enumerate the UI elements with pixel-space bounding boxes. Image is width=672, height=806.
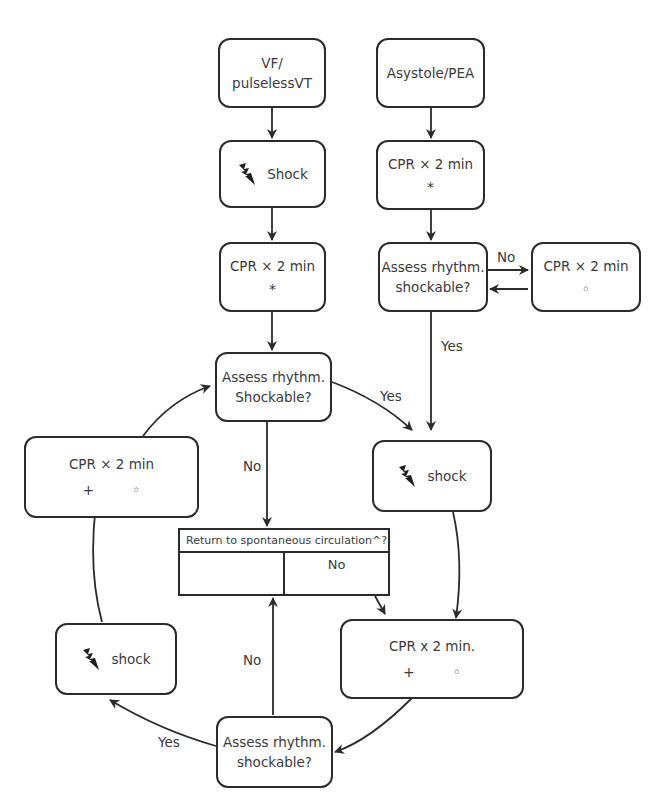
rosc-cell-yes — [180, 553, 283, 594]
node-text: Assess rhythm. — [223, 732, 326, 752]
edge-label-yes: Yes — [158, 734, 180, 750]
node-cpr-2min-asystole: CPR × 2 min * — [376, 140, 485, 210]
edge-label-no: No — [243, 458, 261, 474]
node-text: shock — [111, 649, 150, 669]
node-cpr-2min-loop-left: CPR × 2 min + ◦ — [24, 436, 199, 518]
plus-symbol: + — [403, 662, 415, 682]
node-assess-rhythm-center: Assess rhythm. Shockable? — [215, 352, 332, 422]
node-cpr-2min-loop-right: CPR x 2 min. + ◦ — [340, 619, 524, 699]
asterisk-symbol: * — [269, 280, 276, 298]
node-text: shockable? — [237, 752, 312, 772]
lightning-bolt-icon — [81, 648, 101, 670]
node-shock-initial: Shock — [219, 140, 326, 208]
lightning-bolt-icon — [237, 163, 257, 185]
node-text: CPR x 2 min. — [389, 636, 475, 656]
edge-label-no: No — [497, 249, 515, 265]
lightning-bolt-icon — [397, 465, 417, 487]
circle-symbol: ◦ — [453, 662, 461, 682]
node-text: Shock — [267, 164, 308, 184]
node-shock-right: shock — [372, 440, 492, 512]
node-shock-loop-left: shock — [55, 623, 177, 695]
asterisk-symbol: * — [427, 178, 434, 196]
circle-symbol: ◦ — [582, 280, 590, 298]
node-vf-pulseless-vt: VF/ pulselessVT — [218, 38, 326, 108]
edge-label-no: No — [243, 652, 261, 668]
edge-label-yes: Yes — [441, 338, 463, 354]
node-assess-rhythm-asystole: Assess rhythm. shockable? — [378, 242, 488, 312]
node-text: pulselessVT — [232, 73, 312, 93]
node-assess-rhythm-bottom: Assess rhythm. shockable? — [216, 716, 333, 788]
edge-label-yes: Yes — [380, 388, 402, 404]
flowchart-canvas: VF/ pulselessVT Asystole/PEA Shock CPR ×… — [0, 0, 672, 806]
node-text: VF/ — [261, 53, 283, 73]
circle-symbol: ◦ — [132, 480, 140, 500]
node-text: shockable? — [396, 277, 471, 297]
node-text: Asystole/PEA — [387, 63, 474, 83]
node-text: Assess rhythm. — [222, 367, 325, 387]
rosc-cell-no: No — [283, 553, 388, 594]
plus-symbol: + — [83, 480, 95, 500]
rosc-decision-table: Return to spontaneous circulation^? No — [178, 528, 390, 596]
node-text: CPR × 2 min — [230, 256, 315, 276]
node-text: CPR × 2 min — [388, 154, 473, 174]
node-asystole-pea: Asystole/PEA — [376, 38, 485, 108]
node-text: shock — [427, 466, 466, 486]
node-text: CPR × 2 min — [543, 256, 628, 276]
node-text: CPR × 2 min — [69, 454, 154, 474]
node-cpr-2min-side: CPR × 2 min ◦ — [531, 242, 641, 312]
node-cpr-2min-vf: CPR × 2 min * — [219, 242, 326, 312]
rosc-header: Return to spontaneous circulation^? — [180, 530, 388, 553]
node-text: Shockable? — [235, 387, 311, 407]
node-text: Assess rhythm. — [381, 257, 484, 277]
